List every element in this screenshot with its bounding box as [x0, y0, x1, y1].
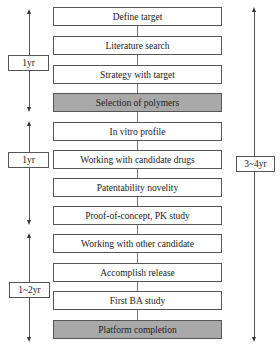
step-in-vitro-profile: In vitro profile	[53, 122, 222, 141]
flow-connector	[137, 197, 138, 206]
flow-connector	[137, 26, 138, 36]
step-proof-of-concept: Proof-of-concept, PK study	[53, 206, 222, 225]
flow-connector	[137, 83, 138, 93]
arrow-down-icon	[252, 337, 256, 342]
phase-2-duration-line	[29, 124, 30, 220]
step-patentability-novelity: Patentability novelity	[53, 178, 222, 197]
step-selection-of-polymers: Selection of polymers	[53, 93, 222, 112]
step-working-with-candidate-drugs: Working with candidate drugs	[53, 150, 222, 169]
step-define-target: Define target	[53, 7, 222, 26]
total-duration-line	[254, 10, 255, 338]
flow-connector	[137, 310, 138, 320]
flow-connector	[137, 225, 138, 234]
phase-1-duration-label: 1yr	[8, 55, 49, 71]
flow-connector	[137, 54, 138, 65]
arrow-down-icon	[27, 220, 31, 225]
step-literature-search: Literature search	[53, 36, 222, 55]
step-strategy-with-target: Strategy with target	[53, 65, 222, 84]
arrow-down-icon	[27, 337, 31, 342]
step-accomplish-release: Accomplish release	[53, 263, 222, 282]
flow-connector	[137, 282, 138, 291]
flow-connector	[137, 141, 138, 150]
arrow-up-icon	[252, 7, 256, 12]
arrow-up-icon	[27, 9, 31, 14]
phase-3-duration-label: 1~2yr	[9, 282, 50, 298]
flow-connector	[137, 169, 138, 178]
flow-connector	[137, 112, 138, 122]
arrow-up-icon	[27, 121, 31, 126]
flow-connector	[137, 253, 138, 263]
step-first-ba-study: First BA study	[53, 291, 222, 310]
arrow-up-icon	[27, 233, 31, 238]
step-platform-completion: Platform completion	[53, 320, 222, 339]
total-duration-label: 3~4yr	[236, 156, 275, 172]
phase-2-duration-label: 1yr	[8, 152, 49, 168]
step-working-with-other-candidate: Working with other candidate	[53, 234, 222, 253]
arrow-down-icon	[27, 107, 31, 112]
